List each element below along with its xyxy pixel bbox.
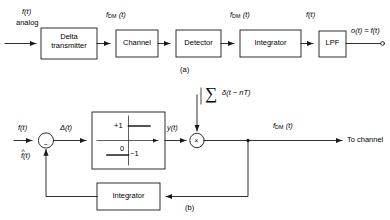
- quantizer-label-plus-one: +1: [114, 121, 123, 130]
- block-label-detector: Detector: [176, 39, 221, 48]
- block-label-delta-transmitter: Delta transmitter: [41, 33, 97, 50]
- wire-b-feedback-down: [166, 141, 248, 197]
- label-output-a: o(t) ≈ f(t): [351, 27, 380, 35]
- output-terminal-a: [381, 42, 385, 46]
- label-input-analog-a: analog: [16, 19, 39, 27]
- figure-canvas: f(t) analog Delta transmitter Channel De…: [0, 0, 390, 220]
- block-label-integrator-b: Integrator: [97, 192, 160, 201]
- block-label-lpf: LPF: [319, 39, 346, 48]
- caption-a: (a): [180, 65, 189, 74]
- wire-b-feedback-up: [46, 150, 97, 197]
- block-label-channel: Channel: [116, 39, 158, 48]
- label-to-channel: To channel: [347, 136, 383, 144]
- summation-sigma-symbol: ∑: [205, 85, 217, 102]
- label-input-signal-a: f(t): [22, 8, 31, 16]
- label-fdm-output-b: fDM (t): [273, 122, 293, 131]
- quantizer-label-zero: 0: [120, 144, 124, 153]
- label-error-signal: Δ(t): [60, 124, 72, 132]
- quantizer-label-minus-one: −1: [130, 149, 139, 158]
- label-fdm-after-transmitter: fDM (t): [106, 11, 126, 20]
- label-feedback-estimate: ^f(t): [21, 152, 30, 160]
- multiplier-glyph: ×: [195, 138, 199, 145]
- label-fdm-after-detector: fDM (t): [230, 11, 250, 20]
- label-f-after-integrator: f(t): [306, 11, 315, 19]
- block-label-integrator-a: Integrator: [240, 39, 301, 48]
- caption-b: (b): [185, 203, 194, 212]
- block-label-delta-line2: transmitter: [51, 41, 86, 50]
- label-quantizer-output: y(t): [167, 124, 178, 132]
- label-input-signal-b: f(t): [18, 124, 27, 132]
- label-pulse-train: δ(t − nT): [222, 89, 251, 97]
- summing-junction-minus-sign: −: [44, 141, 48, 148]
